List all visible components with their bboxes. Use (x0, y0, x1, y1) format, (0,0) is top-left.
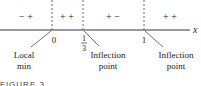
annotation-local: Local (14, 50, 35, 60)
x-axis-label: x (192, 24, 198, 35)
annotation-inflection: Inflection (159, 50, 194, 60)
leader-line-local-min (31, 31, 51, 47)
figure-caption: FIGURE 3 (0, 80, 45, 86)
annotation-point: point (99, 61, 118, 71)
tick-label-one-third-numerator: 1 (82, 34, 86, 43)
tick-label-one-third-denominator: 3 (82, 44, 86, 53)
annotation-inflection: Inflection (91, 50, 126, 60)
leader-line-inflection-2 (145, 31, 163, 47)
interval-signs: + + (60, 11, 74, 22)
leader-line-inflection-1 (84, 31, 99, 46)
annotation-point: point (167, 61, 186, 71)
sign-chart: x − + + + + − + + 0 1 3 1 Local min Infl… (0, 0, 201, 86)
interval-signs: + + (163, 11, 177, 22)
annotation-min: min (17, 61, 32, 71)
interval-signs: − + (19, 11, 33, 22)
interval-signs: + − (106, 11, 120, 22)
tick-label-1: 1 (142, 35, 147, 45)
tick-label-0: 0 (52, 35, 57, 45)
